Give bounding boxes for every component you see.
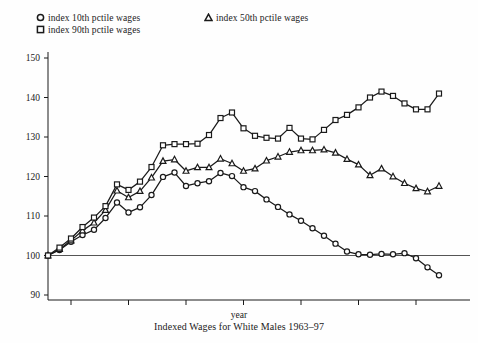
circle-marker [310, 226, 315, 231]
circle-marker [172, 170, 177, 175]
square-marker [115, 182, 120, 187]
square-marker [264, 135, 269, 140]
triangle-marker [126, 194, 132, 200]
square-marker [241, 126, 246, 131]
data-series-group [45, 89, 442, 278]
circle-marker [287, 212, 292, 217]
circle-marker [413, 256, 418, 261]
triangle-marker [413, 185, 419, 191]
triangle-marker [160, 158, 166, 164]
square-marker [379, 89, 384, 94]
triangle-marker [206, 164, 212, 170]
triangle-marker [333, 150, 339, 156]
triangle-marker [356, 161, 362, 167]
chart-canvas: 15014013012011010090 65707580859095 [0, 44, 478, 306]
y-tick-label: 130 [26, 132, 41, 142]
circle-marker [275, 204, 280, 209]
triangle-marker [275, 154, 281, 160]
square-marker [310, 137, 315, 142]
square-marker-icon [36, 25, 45, 34]
square-marker [287, 125, 292, 130]
legend-label-p50: index 50th pctile wages [216, 13, 308, 23]
square-marker [437, 91, 442, 96]
circle-marker [252, 189, 257, 194]
square-marker [230, 110, 235, 115]
circle-marker-icon [36, 13, 45, 22]
triangle-marker [218, 156, 224, 162]
legend-item-p90: index 90th pctile wages [36, 25, 140, 36]
triangle-marker [436, 183, 442, 189]
square-marker [218, 116, 223, 121]
circle-marker [218, 170, 223, 175]
series-p50 [45, 146, 442, 257]
legend-label-p90: index 90th pctile wages [48, 25, 140, 35]
circle-marker [183, 183, 188, 188]
y-tick-label: 120 [26, 172, 41, 182]
circle-marker [206, 179, 211, 184]
triangle-marker [229, 160, 235, 166]
chart-legend: index 10th pctile wages index 90th pctil… [36, 13, 416, 39]
square-marker [368, 95, 373, 100]
legend-label-p10: index 10th pctile wages [48, 13, 140, 23]
circle-marker [402, 251, 407, 256]
circle-marker [126, 210, 131, 215]
circle-marker [149, 192, 154, 197]
y-axis-ticks: 15014013012011010090 [26, 53, 48, 300]
square-marker [149, 165, 154, 170]
legend-item-p10: index 10th pctile wages [36, 13, 140, 24]
circle-marker [195, 181, 200, 186]
circle-marker [241, 185, 246, 190]
chart-figure: index 10th pctile wages index 90th pctil… [0, 0, 478, 343]
triangle-marker [241, 168, 247, 174]
axis-lines [48, 52, 470, 300]
triangle-marker [172, 156, 178, 162]
square-marker [425, 107, 430, 112]
circle-marker [425, 265, 430, 270]
triangle-marker [379, 165, 385, 171]
triangle-marker [390, 173, 396, 179]
y-tick-label: 150 [26, 53, 41, 63]
circle-marker [436, 273, 441, 278]
square-marker [46, 253, 51, 258]
circle-marker [333, 241, 338, 246]
square-marker [92, 215, 97, 220]
square-marker [69, 236, 74, 241]
chart-caption: Indexed Wages for White Males 1963–97 [0, 321, 478, 333]
circle-marker [390, 252, 395, 257]
triangle-marker [402, 180, 408, 186]
square-marker [345, 112, 350, 117]
circle-marker [379, 251, 384, 256]
square-marker [172, 142, 177, 147]
square-marker [80, 225, 85, 230]
triangle-marker [321, 146, 327, 152]
y-tick-label: 140 [26, 93, 41, 103]
circle-marker [91, 227, 96, 232]
square-marker [195, 141, 200, 146]
square-marker [414, 107, 419, 112]
triangle-marker [425, 188, 431, 194]
circle-marker [321, 233, 326, 238]
legend-item-p50: index 50th pctile wages [204, 13, 308, 24]
triangle-marker [264, 158, 270, 164]
triangle-marker [252, 165, 258, 171]
circle-marker [344, 249, 349, 254]
square-marker [322, 127, 327, 132]
series-p10 [45, 170, 441, 278]
circle-marker [229, 174, 234, 179]
square-marker [138, 179, 143, 184]
square-marker [126, 187, 131, 192]
triangle-marker [344, 156, 350, 162]
triangle-marker-icon [204, 13, 213, 22]
square-marker [184, 142, 189, 147]
x-axis-ticks: 65707580859095 [66, 300, 421, 306]
circle-marker [114, 200, 119, 205]
square-marker [57, 245, 62, 250]
square-marker [356, 105, 361, 110]
circle-marker [356, 252, 361, 257]
y-tick-label: 110 [26, 211, 40, 221]
circle-marker [160, 174, 165, 179]
circle-marker [264, 197, 269, 202]
square-marker [253, 133, 258, 138]
x-axis-title: year [0, 310, 478, 321]
plot-area: 15014013012011010090 65707580859095 [0, 44, 478, 306]
